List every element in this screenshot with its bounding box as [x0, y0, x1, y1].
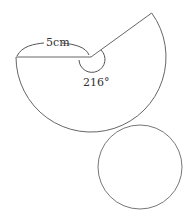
radius-label: 5cm	[46, 36, 70, 49]
base-circle	[98, 125, 182, 209]
angle-label: 216°	[83, 76, 110, 89]
angle-arc	[79, 50, 105, 72]
cone-net-diagram: 5cm 216°	[0, 0, 190, 222]
